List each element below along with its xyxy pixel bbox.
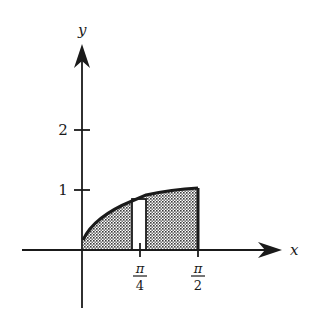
x-tick-label-pi-4-numerator: π: [135, 261, 145, 276]
x-tick-label-pi-4: π 4: [133, 261, 147, 293]
x-axis-label: x: [290, 241, 299, 259]
y-tick-label-1: 1: [58, 181, 68, 199]
y-axis-label: y: [77, 21, 87, 39]
x-tick-label-pi-2: π 2: [191, 261, 205, 293]
x-tick-label-pi-2-numerator: π: [193, 261, 203, 276]
x-tick-label-pi-2-denominator: 2: [194, 278, 202, 293]
diagram-canvas: y x 2 1 π 4 π 2: [0, 0, 320, 312]
x-tick-label-pi-4-denominator: 4: [136, 278, 144, 293]
y-tick-label-2: 2: [58, 121, 68, 139]
unshaded-strip: [132, 199, 146, 250]
